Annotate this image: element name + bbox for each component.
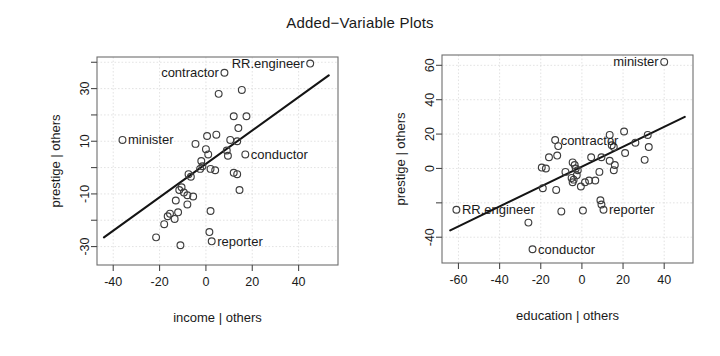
data-point [204,133,211,140]
y-tick-label: 40 [423,93,437,107]
data-point [235,125,242,132]
point-label: conductor [251,147,309,162]
data-point [161,221,168,228]
point-label: conductor [538,242,596,257]
y-tick-label: 10 [78,134,92,148]
data-point [236,187,243,194]
x-tick-label: 20 [245,275,259,289]
data-point [172,197,179,204]
data-point [558,208,565,215]
data-point [207,165,214,172]
x-tick-label: -20 [532,273,550,287]
data-point [215,90,222,97]
point-label: minister [128,132,174,147]
scatter-plot-education: ministercontractorRR.engineerreportercon… [360,0,720,356]
data-point [153,234,160,241]
y-tick-label: -10 [78,185,92,203]
x-tick-label: -40 [491,273,509,287]
x-tick-label: -20 [151,275,169,289]
data-point [546,154,553,161]
x-tick-label: 0 [202,275,209,289]
x-tick-label: 40 [292,275,306,289]
data-point [171,216,178,223]
data-point [213,131,220,138]
data-point [577,183,584,190]
data-point [596,168,603,175]
data-point [243,113,250,120]
data-point [206,229,213,236]
data-point [208,238,215,245]
data-point [622,150,629,157]
panel-income: RR.engineercontractorministerconductorre… [0,0,360,356]
point-label: reporter [609,202,655,217]
y-tick-label: 20 [423,127,437,141]
point-label: RR.engineer [462,202,536,217]
y-tick-label: 30 [78,82,92,96]
data-point [641,156,648,163]
panel-education: ministercontractorRR.engineerreportercon… [360,0,720,356]
point-label: reporter [217,234,263,249]
data-point [580,207,587,214]
y-axis-title: prestige | others [48,114,63,207]
x-tick-label: 40 [657,273,671,287]
y-tick-label: -30 [78,237,92,255]
data-point [582,179,589,186]
data-point [221,69,228,76]
data-point [529,246,536,253]
x-tick-label: -40 [104,275,122,289]
scatter-plot-income: RR.engineercontractorministerconductorre… [0,0,360,356]
point-label: contractor [561,133,619,148]
data-point [554,152,561,159]
point-label: minister [613,54,659,69]
data-point [307,60,314,67]
data-point [207,208,214,215]
plot-frame [442,55,693,263]
x-axis-title: education | others [516,308,620,323]
data-point [175,209,182,216]
data-point [230,113,237,120]
data-point [242,151,249,158]
data-point [645,144,652,151]
point-label: contractor [161,65,219,80]
x-tick-label: 0 [578,273,585,287]
data-point [553,187,560,194]
data-point [177,242,184,249]
data-point [119,137,126,144]
data-point [227,137,234,144]
x-axis-title: income | others [173,310,262,325]
y-axis-title: prestige | others [393,112,408,205]
point-label: RR.engineer [232,56,306,71]
data-point [212,167,219,174]
data-point [588,154,595,161]
data-point [525,219,532,226]
y-tick-label: 0 [423,165,437,172]
y-tick-label: 60 [423,58,437,72]
y-tick-label: -40 [423,228,437,246]
x-tick-label: 20 [616,273,630,287]
data-point [238,87,245,94]
added-variable-plots-figure: Added−Variable Plots RR.engineercontract… [0,0,720,356]
data-point [184,201,191,208]
x-tick-label: -60 [449,273,467,287]
